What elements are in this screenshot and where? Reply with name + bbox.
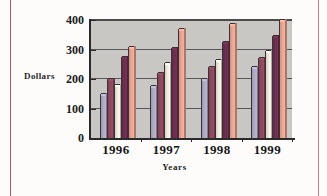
bar bbox=[272, 36, 279, 138]
bar bbox=[164, 63, 171, 138]
bar-side-face bbox=[235, 23, 237, 138]
bar bbox=[258, 58, 265, 138]
bar-group-1997 bbox=[150, 20, 185, 138]
bar bbox=[128, 47, 135, 138]
y-axis-tick-label: 200 bbox=[50, 73, 84, 85]
x-axis-tick-label-1998: 1998 bbox=[203, 142, 230, 158]
y-axis-title: Dollars bbox=[24, 71, 55, 81]
bar-chart-figure: 0100200300400 Dollars 1996199719981999 Y… bbox=[0, 0, 327, 196]
bar bbox=[265, 51, 272, 138]
bar bbox=[100, 94, 107, 138]
bar-group-1998 bbox=[201, 20, 236, 138]
x-axis-line bbox=[89, 138, 295, 140]
y-axis-tick-mark bbox=[90, 138, 96, 139]
bar-group-1999 bbox=[251, 20, 286, 138]
bar bbox=[150, 86, 157, 138]
bar-side-face bbox=[134, 46, 136, 138]
x-axis-tick-mark bbox=[141, 138, 142, 142]
y-axis-tick-label: 300 bbox=[50, 44, 84, 56]
bar bbox=[178, 29, 185, 138]
bar bbox=[222, 42, 229, 138]
bar bbox=[157, 73, 164, 138]
bar-groups bbox=[90, 20, 292, 138]
bar bbox=[171, 48, 178, 138]
bar bbox=[208, 67, 215, 138]
bar bbox=[121, 57, 128, 138]
bar bbox=[107, 79, 114, 138]
y-axis-tick-label: 400 bbox=[50, 14, 84, 26]
x-axis-tick-label-1999: 1999 bbox=[254, 142, 281, 158]
bar-side-face bbox=[184, 28, 186, 138]
y-axis-tick-label: 0 bbox=[50, 132, 84, 144]
bar bbox=[215, 60, 222, 138]
x-axis-tick-mark bbox=[242, 138, 243, 142]
bar bbox=[114, 85, 121, 138]
bar-group-1996 bbox=[100, 20, 135, 138]
y-axis-tick-label: 100 bbox=[50, 103, 84, 115]
bar bbox=[201, 79, 208, 138]
x-axis-tick-mark bbox=[292, 138, 293, 142]
bar-side-face bbox=[285, 19, 287, 138]
bar bbox=[251, 67, 258, 138]
x-axis-title: Years bbox=[0, 162, 327, 172]
bar bbox=[229, 24, 236, 138]
x-axis-tick-mark bbox=[191, 138, 192, 142]
x-axis-tick-label-1997: 1997 bbox=[153, 142, 180, 158]
x-axis-tick-label-1996: 1996 bbox=[102, 142, 129, 158]
bar bbox=[279, 20, 286, 138]
x-axis-title-text: Years bbox=[162, 162, 187, 172]
